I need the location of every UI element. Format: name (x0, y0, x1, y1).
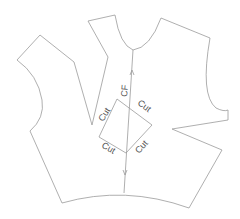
cut-label-bottom-left: Cut (100, 140, 118, 156)
arrow-up-icon (130, 70, 134, 75)
left-panel-outline (17, 15, 228, 208)
cut-label-top-left: Cut (96, 105, 112, 123)
cut-label-top-right: Cut (136, 98, 154, 115)
cut-label-bottom-right: Cut (133, 138, 150, 155)
pattern-diagram: CF Cut Cut Cut Cut (0, 0, 240, 219)
cf-label: CF (119, 84, 130, 97)
